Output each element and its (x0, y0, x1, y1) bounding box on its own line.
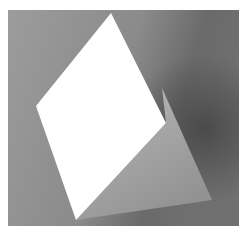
photograph (0, 0, 249, 233)
folded-card-illustration (0, 0, 249, 233)
